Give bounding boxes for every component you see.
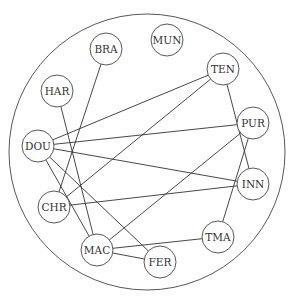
node-tma: TMA (202, 221, 234, 253)
edge-chr-inn (70, 186, 237, 205)
node-label: BRA (94, 43, 118, 55)
node-pur: PUR (237, 107, 269, 139)
node-mac: MAC (81, 234, 113, 266)
node-ten: TEN (207, 53, 239, 85)
node-chr: CHR (38, 191, 70, 223)
edge-dou-inn (54, 149, 237, 181)
edge-chr-ten (66, 79, 210, 197)
node-label: DOU (25, 140, 51, 152)
node-fer: FER (144, 246, 176, 278)
node-label: CHR (41, 201, 67, 213)
node-dou: DOU (22, 130, 54, 162)
node-label: TEN (211, 63, 235, 75)
node-har: HAR (41, 75, 73, 107)
node-label: INN (242, 178, 265, 190)
node-inn: INN (237, 168, 269, 200)
node-label: MUN (153, 34, 182, 46)
node-label: MAC (84, 244, 110, 256)
node-label: HAR (45, 85, 71, 97)
node-bra: BRA (90, 33, 122, 65)
node-label: TMA (205, 231, 231, 243)
edge-mac-fer (113, 253, 145, 259)
node-label: PUR (241, 117, 266, 129)
network-diagram: BRAMUNTENHARPURDOUINNCHRTMAMACFER (0, 0, 295, 301)
node-mun: MUN (151, 24, 183, 56)
node-label: FER (149, 256, 173, 268)
